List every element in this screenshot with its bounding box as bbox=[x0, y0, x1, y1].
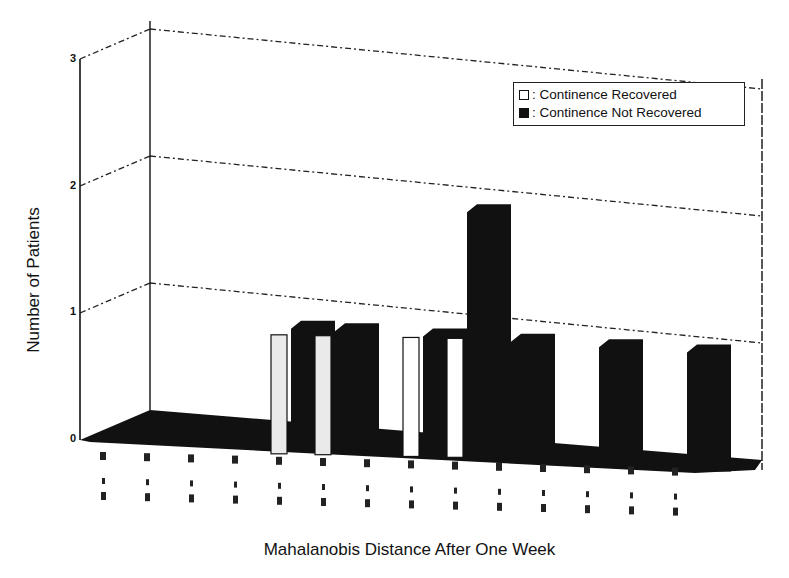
bar-not-recovered bbox=[335, 323, 379, 450]
bar-not-recovered bbox=[511, 334, 555, 461]
bar-not-recovered bbox=[467, 204, 511, 458]
x-axis-title: Mahalanobis Distance After One Week bbox=[0, 540, 789, 560]
bar-recovered bbox=[403, 337, 419, 456]
legend-swatch-white bbox=[519, 90, 529, 100]
bar-not-recovered bbox=[599, 339, 643, 466]
y-tick-1: 1 bbox=[64, 305, 76, 317]
y-tick-0: 0 bbox=[64, 432, 76, 444]
legend-item-recovered: : Continence Recovered bbox=[519, 86, 739, 104]
bar-not-recovered bbox=[687, 344, 731, 471]
legend-swatch-black bbox=[519, 108, 529, 118]
chart-legend: : Continence Recovered : Continence Not … bbox=[513, 82, 745, 126]
y-axis-title: Number of Patients bbox=[14, 180, 54, 380]
bar-recovered bbox=[447, 338, 463, 457]
legend-item-not-recovered: : Continence Not Recovered bbox=[519, 104, 739, 122]
y-tick-3: 3 bbox=[64, 52, 76, 64]
bar-recovered bbox=[271, 335, 287, 454]
bar-recovered bbox=[315, 336, 331, 455]
y-tick-2: 2 bbox=[64, 179, 76, 191]
